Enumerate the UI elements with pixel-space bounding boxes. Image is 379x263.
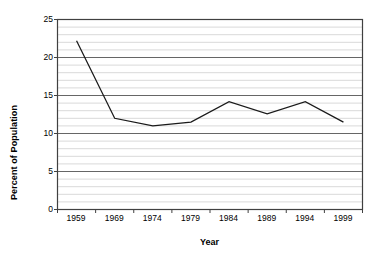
minor-gridlines: [58, 27, 363, 202]
x-tick-label: 1994: [286, 211, 324, 225]
x-tick-label: 1999: [324, 211, 362, 225]
x-tick-label: 1984: [210, 211, 248, 225]
x-axis-title-text: Year: [200, 237, 219, 247]
chart-container: Percent of Population 0 5 10 15 20 25 19…: [0, 0, 379, 263]
x-tick-label: 1969: [95, 211, 133, 225]
plot-frame: [58, 20, 363, 210]
x-tick-label: 1974: [133, 211, 171, 225]
data-series-line: [77, 41, 344, 126]
x-axis-title: Year: [57, 237, 362, 247]
x-tick-label: 1979: [171, 211, 209, 225]
x-axis-tick-labels: 1959 1969 1974 1979 1984 1989 1994 1999: [57, 211, 362, 225]
major-gridlines: [58, 58, 363, 172]
x-tick-label: 1989: [248, 211, 286, 225]
x-tick-label: 1959: [57, 211, 95, 225]
